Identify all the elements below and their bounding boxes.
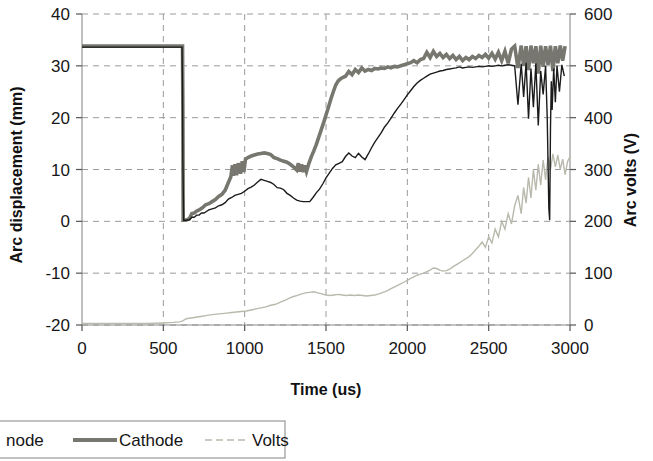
legend-label-anode: node	[6, 431, 44, 450]
chart-figure: -20-10010203040 0100200300400500600 0500…	[0, 0, 653, 461]
y-tick-label: -20	[45, 316, 70, 335]
y2-axis-title: Arc volts (V)	[622, 133, 639, 227]
y-axis-title: Arc displacement (mm)	[8, 87, 25, 264]
y-tick-label: -10	[45, 264, 70, 283]
x-tick-label: 2000	[388, 339, 426, 358]
x-tick-label: 3000	[551, 339, 589, 358]
y-tick-label: 30	[51, 57, 70, 76]
x-tick-label: 500	[149, 339, 177, 358]
legend-label-cathode: Cathode	[119, 431, 183, 450]
y2-tick-label: 100	[584, 264, 612, 283]
y2-tick-label: 500	[584, 57, 612, 76]
y-tick-label: 10	[51, 161, 70, 180]
y2-tick-label: 600	[584, 5, 612, 24]
x-tick-label: 2500	[470, 339, 508, 358]
y-tick-label: 20	[51, 109, 70, 128]
y-tick-label: 0	[61, 212, 70, 231]
y2-tick-label: 300	[584, 161, 612, 180]
y2-tick-label: 0	[584, 316, 593, 335]
y2-tick-label: 200	[584, 212, 612, 231]
x-tick-label: 1000	[226, 339, 264, 358]
y-tick-label: 40	[51, 5, 70, 24]
x-tick-label: 0	[77, 339, 86, 358]
x-tick-label: 1500	[307, 339, 345, 358]
chart-legend: node Cathode Volts	[0, 421, 289, 458]
arc-displacement-voltage-chart: -20-10010203040 0100200300400500600 0500…	[0, 0, 653, 461]
legend-label-volts: Volts	[252, 431, 289, 450]
y2-tick-label: 400	[584, 109, 612, 128]
x-axis-title: Time (us)	[291, 381, 362, 398]
